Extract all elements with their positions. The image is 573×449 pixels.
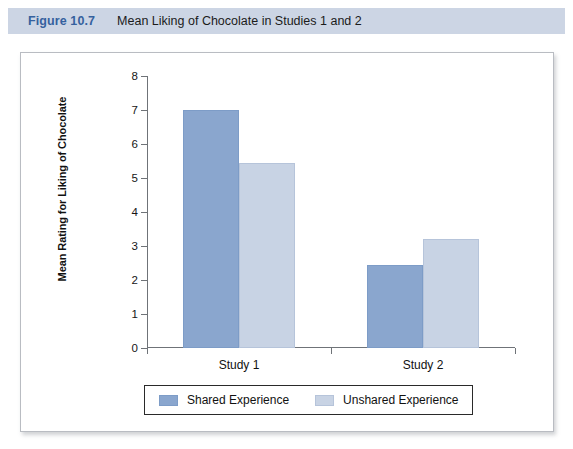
legend-label-unshared: Unshared Experience (343, 393, 458, 407)
y-axis-tick-label: 8 (132, 70, 138, 82)
y-axis-tick-mark (141, 314, 147, 315)
x-axis-tick-mark (331, 348, 332, 354)
legend-swatch-unshared-icon (315, 395, 334, 406)
y-axis-tick-label: 1 (132, 308, 138, 320)
y-axis-tick-mark (141, 110, 147, 111)
x-axis-tick-mark (515, 348, 516, 354)
y-axis-tick-mark (141, 178, 147, 179)
figure-caption-band: Figure 10.7 Mean Liking of Chocolate in … (8, 8, 565, 34)
y-axis-tick-label: 2 (132, 274, 138, 286)
bar-unshared-study-2 (423, 239, 479, 348)
y-axis-line (147, 76, 148, 348)
x-axis-label-study-1: Study 1 (219, 358, 260, 372)
y-axis-tick-label: 6 (132, 138, 138, 150)
y-axis-title: Mean Rating for Liking of Chocolate (56, 74, 68, 304)
figure-title-label: Mean Liking of Chocolate in Studies 1 an… (117, 14, 362, 28)
y-axis-tick-label: 5 (132, 172, 138, 184)
plot-area: 012345678 Study 1Study 2 (147, 76, 515, 348)
y-axis-tick-mark (141, 144, 147, 145)
y-axis-tick-mark (141, 246, 147, 247)
y-axis-tick-label: 0 (132, 342, 138, 354)
y-axis-tick-mark (141, 76, 147, 77)
y-axis-tick-mark (141, 280, 147, 281)
bar-shared-study-1 (183, 110, 239, 348)
bar-unshared-study-1 (239, 163, 295, 348)
x-axis-tick-mark (147, 348, 148, 354)
y-axis-tick-mark (141, 212, 147, 213)
legend-item-shared[interactable]: Shared Experience (159, 393, 289, 407)
x-axis-label-study-2: Study 2 (403, 358, 444, 372)
bar-shared-study-2 (367, 265, 423, 348)
y-axis-tick-label: 4 (132, 206, 138, 218)
y-axis-tick-label: 7 (132, 104, 138, 116)
legend-swatch-shared-icon (159, 395, 178, 406)
y-axis-tick-label: 3 (132, 240, 138, 252)
legend-label-shared: Shared Experience (187, 393, 289, 407)
legend-item-unshared[interactable]: Unshared Experience (315, 393, 458, 407)
chart-legend: Shared Experience Unshared Experience (144, 385, 473, 415)
chart-panel: Mean Rating for Liking of Chocolate 0123… (20, 52, 554, 432)
plot-wrapper: Mean Rating for Liking of Chocolate 0123… (21, 53, 555, 433)
figure-number-label: Figure 10.7 (28, 14, 95, 28)
